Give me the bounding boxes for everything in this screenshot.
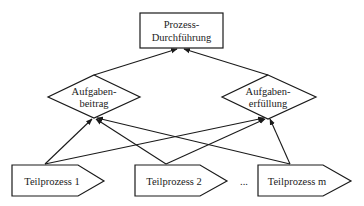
node-teilprozess-m: Teilprozess m xyxy=(258,165,351,196)
edge-erfuellung-to-durchfuehrung xyxy=(184,49,268,75)
node-aufgabenbeitrag: Aufgaben- beitrag xyxy=(48,75,140,118)
node-teilprozess-1: Teilprozess 1 xyxy=(12,165,104,196)
node-prozess-durchfuehrung: Prozess- Durchführung xyxy=(140,13,223,48)
ellipsis: ... xyxy=(240,176,248,187)
node-label: Teilprozess 2 xyxy=(146,176,202,187)
node-label-line1: Aufgaben- xyxy=(72,86,117,97)
edge-tpm-to-erfuellung xyxy=(270,119,290,164)
edge-beitrag-to-durchfuehrung xyxy=(94,49,177,75)
edge-tpm-to-beitrag xyxy=(97,118,290,164)
node-teilprozess-2: Teilprozess 2 xyxy=(135,165,227,196)
node-label: Teilprozess 1 xyxy=(24,176,80,187)
node-label-line1: Prozess- xyxy=(164,19,200,30)
node-aufgabenerfuellung: Aufgaben- erfüllung xyxy=(222,75,316,119)
node-label-line1: Aufgaben- xyxy=(246,86,291,97)
node-label: Teilprozess m xyxy=(268,176,326,187)
node-label-line2: Durchführung xyxy=(152,32,212,43)
node-label-line2: erfüllung xyxy=(249,98,288,109)
node-label-line2: beitrag xyxy=(79,98,109,109)
process-diagram: Prozess- Durchführung Aufgaben- beitrag … xyxy=(0,0,364,206)
edge-tp2-to-erfuellung xyxy=(166,119,265,164)
edge-tp1-to-beitrag xyxy=(45,119,92,164)
